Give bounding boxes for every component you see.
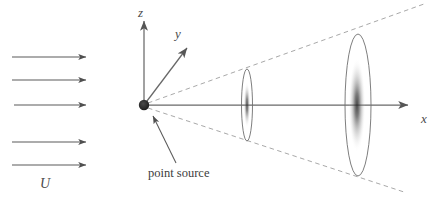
- z-axis-label: z: [138, 6, 143, 19]
- near-screen-spot: [244, 82, 251, 128]
- point-source-pointer-arrow: [153, 116, 176, 163]
- flow-arrow-group: [12, 57, 86, 165]
- scattering-diagram-figure: z y x U point source: [0, 0, 442, 208]
- flow-velocity-label: U: [40, 177, 50, 191]
- x-axis-label: x: [421, 112, 427, 125]
- point-source-caption: point source: [148, 167, 209, 180]
- near-screen: [242, 69, 253, 141]
- scattering-cone: [148, 4, 424, 192]
- far-screen: [345, 34, 371, 176]
- diagram-canvas: [0, 0, 442, 208]
- point-source-dot: [139, 100, 149, 110]
- far-screen-spot: [349, 58, 366, 152]
- y-axis-label: y: [175, 27, 181, 40]
- cone-upper-line: [148, 4, 424, 103]
